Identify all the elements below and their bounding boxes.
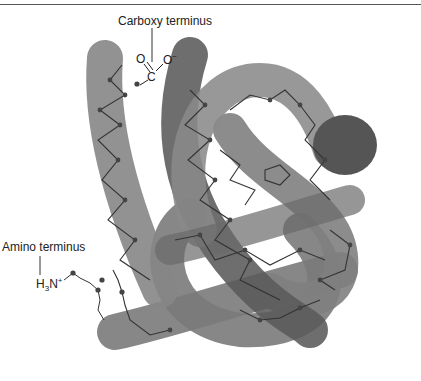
amine-group: H3N+ (36, 276, 62, 293)
nitrogen-symbol: N (49, 277, 58, 291)
carboxyl-oxygen-double: O (136, 52, 145, 66)
hydrogen-symbol: H (36, 277, 45, 291)
carboxyl-oxygen-single: O− (163, 52, 177, 67)
negative-charge: − (172, 52, 177, 61)
positive-charge: + (58, 276, 63, 285)
oxygen-symbol: O (163, 53, 172, 67)
protein-tube-diagram (0, 0, 421, 381)
tube-segment-carboxy-end (104, 58, 160, 290)
carboxy-terminus-label: Carboxy terminus (118, 14, 212, 28)
tube-end-dark-blob (313, 115, 377, 175)
amino-terminus-label: Amino terminus (2, 240, 85, 254)
carboxyl-carbon: C (147, 70, 156, 84)
